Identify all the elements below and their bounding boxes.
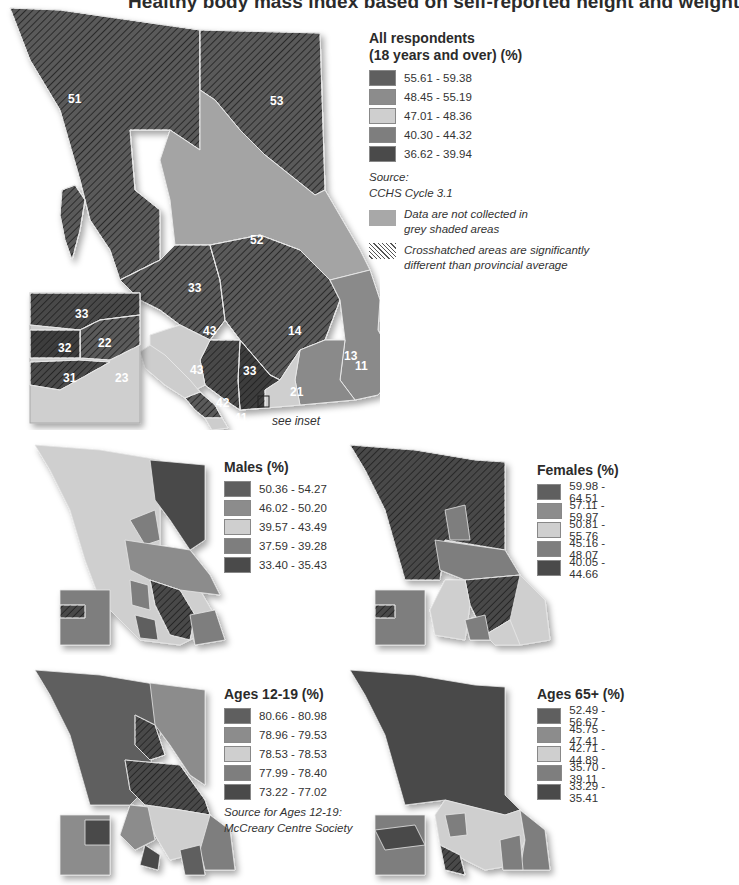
hatch-swatch	[369, 243, 396, 259]
svg-text:33: 33	[243, 364, 257, 378]
no-data-note: Data are not collected in grey shaded ar…	[369, 207, 629, 237]
see-inset-label: see inset	[272, 414, 320, 428]
legend-class-5: 73.22 - 77.02	[224, 782, 352, 801]
svg-text:21: 21	[290, 385, 304, 399]
main-legend-title-2: (18 years and over) (%)	[369, 47, 629, 64]
svg-text:53: 53	[270, 94, 284, 108]
legend-class-2: 48.45 - 55.19	[369, 87, 629, 106]
females-legend-title: Females (%)	[537, 462, 630, 479]
main-legend: All respondents (18 years and over) (%) …	[369, 30, 629, 273]
svg-text:51: 51	[68, 92, 82, 106]
legend-class-2: 78.96 - 79.53	[224, 725, 352, 744]
legend-class-3: 47.01 - 48.36	[369, 106, 629, 125]
svg-text:31: 31	[63, 371, 77, 385]
legend-class-5: 36.62 - 39.94	[369, 144, 629, 163]
ages-12-19-legend: Ages 12-19 (%) 80.66 - 80.98 78.96 - 79.…	[224, 686, 352, 836]
svg-text:32: 32	[58, 341, 72, 355]
svg-text:23: 23	[115, 371, 129, 385]
svg-text:14: 14	[288, 324, 302, 338]
source-value: CCHS Cycle 3.1	[369, 185, 629, 201]
ages-12-19-source-1: Source for Ages 12-19:	[224, 804, 352, 820]
main-bc-map: 51 53 52 33 14 43 43 11 12 13 33 21 42 4…	[0, 0, 380, 430]
ages-12-19-legend-title: Ages 12-19 (%)	[224, 686, 352, 703]
legend-class-5: 33.40 - 35.43	[224, 555, 327, 574]
legend-class-3: 39.57 - 43.49	[224, 517, 327, 536]
svg-text:33: 33	[75, 307, 89, 321]
males-legend: Males (%) 50.36 - 54.27 46.02 - 50.20 39…	[224, 459, 327, 574]
legend-class-4: 40.30 - 44.32	[369, 125, 629, 144]
svg-text:33: 33	[188, 281, 202, 295]
legend-class-4: 37.59 - 39.28	[224, 536, 327, 555]
legend-class-4: 77.99 - 78.40	[224, 763, 352, 782]
legend-class-5: 40.05 - 44.66	[537, 558, 630, 577]
svg-text:43: 43	[203, 324, 217, 338]
svg-text:13: 13	[344, 349, 358, 363]
svg-text:52: 52	[250, 233, 264, 247]
ages-65-legend-title: Ages 65+ (%)	[537, 686, 630, 703]
legend-class-1: 55.61 - 59.38	[369, 68, 629, 87]
legend-class-1: 50.36 - 54.27	[224, 479, 327, 498]
females-legend: Females (%) 59.98 - 64.51 57.11 - 59.97 …	[537, 462, 630, 577]
region-41	[205, 418, 228, 430]
males-legend-title: Males (%)	[224, 459, 327, 476]
legend-class-2: 46.02 - 50.20	[224, 498, 327, 517]
hatch-note: Crosshatched areas are significantly dif…	[369, 243, 629, 273]
legend-class-3: 78.53 - 78.53	[224, 744, 352, 763]
ages-65-legend: Ages 65+ (%) 52.49 - 56.67 45.75 - 47.41…	[537, 686, 630, 801]
svg-text:43: 43	[190, 363, 204, 377]
source-label: Source:	[369, 169, 629, 185]
main-legend-title-1: All respondents	[369, 30, 629, 47]
svg-text:41: 41	[234, 411, 248, 425]
legend-class-1: 80.66 - 80.98	[224, 706, 352, 725]
svg-text:22: 22	[98, 336, 112, 350]
legend-class-5: 33.29 - 35.41	[537, 782, 630, 801]
ages-12-19-source-2: McCreary Centre Society	[224, 820, 352, 836]
no-data-swatch	[369, 210, 396, 226]
svg-text:42: 42	[216, 396, 230, 410]
